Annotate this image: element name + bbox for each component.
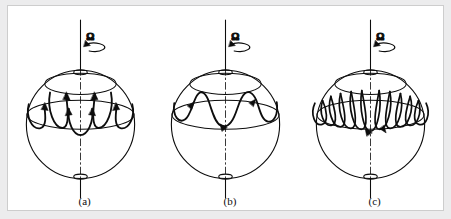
panel-row: Ω (a) (8, 6, 443, 210)
panel-c-drawing: Ω (298, 6, 443, 210)
panel-b-drawing: Ω (153, 6, 298, 210)
panel-c: Ω (c) (298, 6, 443, 210)
panel-a-drawing: Ω (8, 6, 153, 210)
figure-frame: Ω (a) (7, 5, 444, 211)
wave-arrowhead-group (187, 99, 255, 131)
rotation-rate-label: Ω (376, 31, 384, 42)
panel-b: Ω (b) (153, 6, 298, 210)
panel-b-caption: (b) (224, 196, 237, 207)
roll-arrowhead (65, 108, 72, 116)
rotation-rate-label: Ω (86, 31, 94, 42)
rotation-rate-label: Ω (231, 31, 239, 42)
panel-c-caption: (c) (369, 196, 381, 207)
panel-a-caption: (a) (79, 196, 91, 207)
wave-arrowhead (249, 99, 256, 107)
roll-arrowhead (89, 108, 96, 116)
panel-a: Ω (a) (8, 6, 153, 210)
wave-arrowhead (187, 102, 194, 110)
